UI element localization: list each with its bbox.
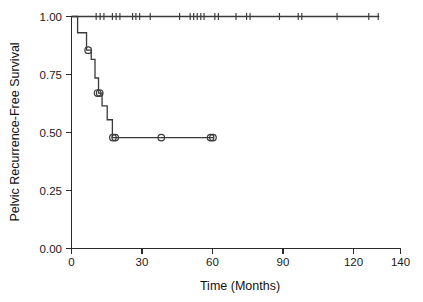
curve-layer xyxy=(72,13,380,141)
km-step-line xyxy=(72,17,214,138)
survival-plot: 1.00 0.75 0.50 0.25 0.00 0 30 60 90 120 … xyxy=(0,0,423,302)
x-tick-label-0: 0 xyxy=(68,256,74,268)
y-tick-label-0.50: 0.50 xyxy=(40,127,62,139)
x-axis-title: Time (Months) xyxy=(200,279,280,293)
y-tick-label-0.75: 0.75 xyxy=(40,69,62,81)
x-tick-label-90: 90 xyxy=(277,256,290,268)
x-tick-label-140: 140 xyxy=(391,256,410,268)
x-tick-label-60: 60 xyxy=(206,256,219,268)
x-tick-label-30: 30 xyxy=(136,256,149,268)
series-upper-curve xyxy=(72,13,380,20)
y-tick-label-0.00: 0.00 xyxy=(40,243,62,255)
series-lower-curve xyxy=(72,17,217,141)
y-tick-label-1.00: 1.00 xyxy=(40,11,62,23)
x-axis-ticks: 0 30 60 90 120 140 xyxy=(68,249,410,269)
y-axis-ticks: 1.00 0.75 0.50 0.25 0.00 xyxy=(40,11,72,255)
x-tick-label-120: 120 xyxy=(344,256,363,268)
y-tick-label-0.25: 0.25 xyxy=(40,185,62,197)
kaplan-meier-figure: 1.00 0.75 0.50 0.25 0.00 0 30 60 90 120 … xyxy=(0,0,423,302)
y-axis-title: Pelvic Recurrence-Free Survival xyxy=(8,42,22,221)
